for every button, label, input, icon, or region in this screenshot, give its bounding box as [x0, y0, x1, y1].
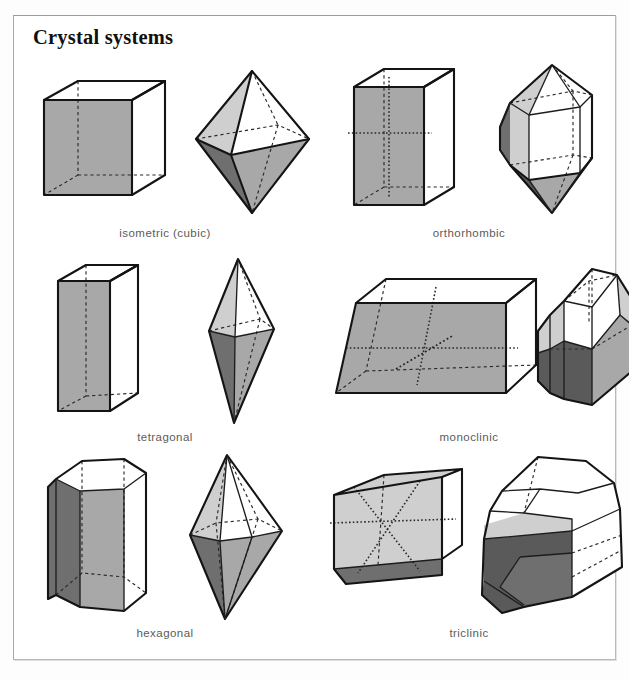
- shape-cube: [44, 81, 165, 195]
- shape-rhombic-dipyramid-prism: [500, 65, 592, 213]
- page-title: Crystal systems: [33, 26, 173, 49]
- crystal-system-monoclinic: monoclinic: [324, 253, 614, 453]
- crystal-system-label-hexagonal: hexagonal: [20, 627, 310, 639]
- shape-square-prism: [58, 265, 138, 411]
- shape-triclinic-parallelepiped: [330, 469, 466, 584]
- crystal-system-label-orthorhombic: orthorhombic: [324, 227, 614, 239]
- shape-oblique-prism: [336, 279, 536, 393]
- shape-triclinic-crystal: [482, 457, 622, 613]
- shape-pair-hexagonal: [20, 447, 310, 632]
- crystal-system-label-monoclinic: monoclinic: [324, 431, 614, 443]
- crystal-system-triclinic: triclinic: [324, 447, 614, 655]
- crystal-system-orthorhombic: orthorhombic: [324, 55, 614, 255]
- crystal-system-tetragonal: tetragonal: [20, 253, 310, 453]
- shape-octahedron: [196, 71, 309, 213]
- crystal-system-isometric: isometric (cubic): [20, 55, 310, 255]
- shape-hexagonal-dipyramid: [190, 455, 282, 619]
- shape-rectangular-prism: [348, 69, 454, 205]
- crystal-system-label-triclinic: triclinic: [324, 627, 614, 639]
- shape-pair-tetragonal: [20, 253, 310, 435]
- crystal-system-label-isometric: isometric (cubic): [20, 227, 310, 239]
- shape-tetragonal-dipyramid: [209, 259, 274, 423]
- shape-pair-triclinic: [324, 447, 614, 632]
- shape-pair-monoclinic: [324, 253, 614, 435]
- shape-pair-orthorhombic: [324, 55, 614, 230]
- crystal-system-label-tetragonal: tetragonal: [20, 431, 310, 443]
- crystal-system-hexagonal: hexagonal: [20, 447, 310, 655]
- crystal-systems-figure-grid: isometric (cubic): [14, 55, 615, 655]
- shape-monoclinic-crystal: [538, 269, 629, 405]
- shape-pair-isometric: [20, 55, 310, 230]
- shape-hexagonal-prism: [48, 459, 146, 611]
